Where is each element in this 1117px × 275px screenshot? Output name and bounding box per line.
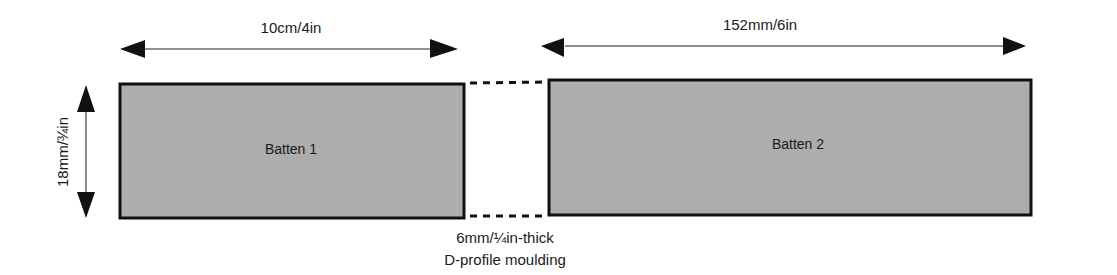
batten-2-width-arrow-icon xyxy=(541,37,1026,57)
batten-1-label: Batten 1 xyxy=(265,141,317,157)
moulding-top-dashed-line xyxy=(470,82,546,83)
batten-1-width-label: 10cm/4in xyxy=(261,19,322,36)
height-label: 18mm/¾in xyxy=(54,117,71,187)
moulding-caption-line2: D-profile moulding xyxy=(444,251,566,268)
batten-2-width-label: 152mm/6in xyxy=(723,16,797,33)
batten-1-width-arrow-icon xyxy=(120,39,458,58)
diagram-canvas xyxy=(0,0,1117,275)
height-arrow-icon xyxy=(77,85,95,218)
batten-2-label: Batten 2 xyxy=(772,136,824,152)
moulding-caption-line1: 6mm/¼in-thick xyxy=(456,229,554,246)
